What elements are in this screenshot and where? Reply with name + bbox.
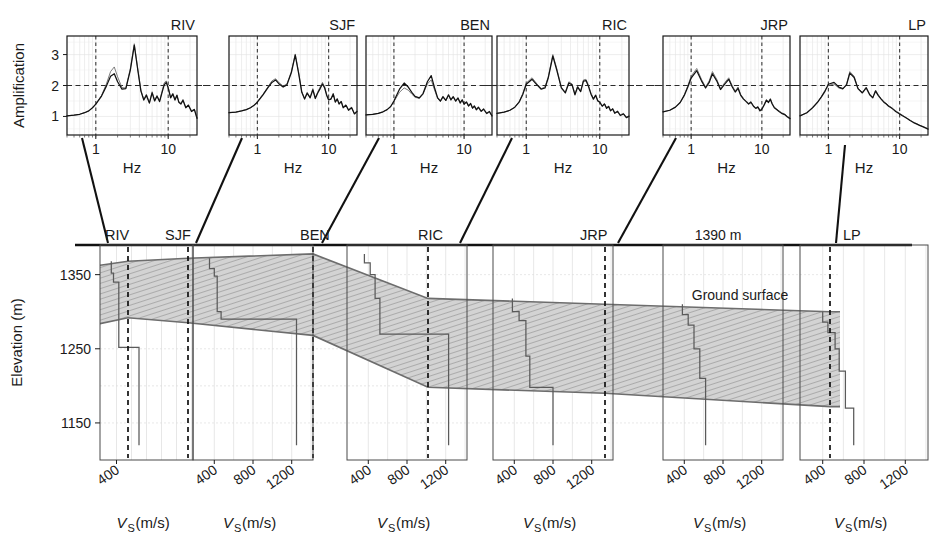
amp-xtick: 10 [754, 141, 770, 157]
vs-subscript: S [845, 522, 852, 534]
vs-units: (m/s) [136, 514, 170, 531]
amp-panel-title-lp: LP [908, 17, 926, 33]
vs-subscript: S [704, 522, 711, 534]
section-site-label-ric: RIC [418, 227, 443, 243]
amp-xlabel: Hz [554, 159, 572, 176]
amp-xlabel: Hz [284, 159, 302, 176]
vs-units: (m/s) [242, 514, 276, 531]
figure-root: RIV110Hz123AmplificationSJF110HzBEN110Hz… [0, 0, 933, 556]
section-site-label-ben: BEN [300, 227, 330, 243]
vs-subscript: S [534, 522, 541, 534]
amp-ytick: 3 [51, 47, 59, 63]
ground-surface-label: Ground surface [692, 287, 789, 303]
amp-xtick: 1 [824, 141, 832, 157]
amp-xtick: 10 [592, 141, 608, 157]
amp-panel-title-jrp: JRP [761, 17, 788, 33]
amp-xlabel: Hz [855, 159, 873, 176]
elevation-tick: 1250 [60, 341, 91, 357]
amp-xtick: 1 [687, 141, 695, 157]
amp-panel-title-ben: BEN [460, 17, 490, 33]
vs-units: (m/s) [853, 514, 887, 531]
amp-xlabel: Hz [420, 159, 438, 176]
amp-xlabel: Hz [717, 159, 735, 176]
vs-subscript: S [388, 522, 395, 534]
amp-xtick: 10 [321, 141, 337, 157]
amp-xtick: 10 [456, 141, 472, 157]
amplification-ylabel: Amplification [10, 43, 27, 128]
section-site-label-sjf: SJF [165, 227, 191, 243]
vs-units: (m/s) [396, 514, 430, 531]
elevation-tick: 1150 [61, 415, 91, 431]
amp-panel-title-sjf: SJF [329, 17, 355, 33]
amp-ytick: 2 [51, 78, 59, 94]
section-site-label-jrp: JRP [580, 227, 607, 243]
section-site-label-lp: LP [843, 227, 861, 243]
amp-xtick: 1 [92, 141, 100, 157]
elevation-tick: 1350 [60, 267, 91, 283]
amp-xtick: 10 [892, 141, 908, 157]
amp-xtick: 10 [160, 141, 176, 157]
figure-canvas: RIV110Hz123AmplificationSJF110HzBEN110Hz… [0, 0, 933, 556]
amp-panel-title-riv: RIV [171, 17, 196, 33]
amp-xtick: 1 [253, 141, 261, 157]
vs-units: (m/s) [712, 514, 746, 531]
section-site-label-riv: RIV [105, 227, 130, 243]
amp-xtick: 1 [522, 141, 530, 157]
vs-units: (m/s) [542, 514, 576, 531]
amp-xtick: 1 [390, 141, 398, 157]
elevation-ylabel: Elevation (m) [8, 298, 25, 386]
section-distance-label: 1390 m [695, 227, 742, 243]
amp-ytick: 1 [51, 108, 59, 124]
vs-subscript: S [234, 522, 241, 534]
vs-subscript: S [128, 522, 135, 534]
amp-xlabel: Hz [123, 159, 141, 176]
amp-panel-title-ric: RIC [602, 17, 627, 33]
